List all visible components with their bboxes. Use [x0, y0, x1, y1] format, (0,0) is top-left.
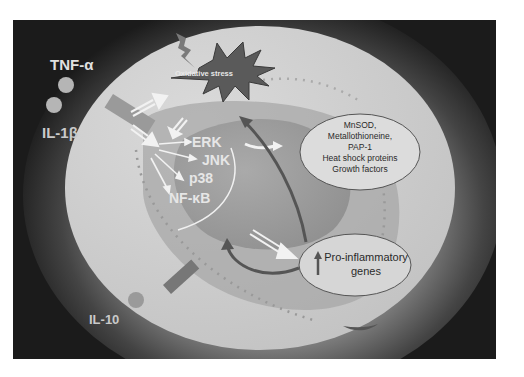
gene-heat-shock-proteins: Heat shock proteins [300, 153, 420, 164]
inflammatory-genes-text: Pro-inflammatory genes [311, 250, 421, 278]
label-il-1-beta: IL-1β [42, 124, 78, 141]
label-oxidative-stress: Oxidative stress [175, 69, 233, 78]
label-il-10: IL-10 [89, 312, 119, 327]
label-erk: ERK [192, 134, 222, 150]
label-jnk: JNK [202, 152, 230, 168]
label-pro-inflammatory: Pro-inflammatory [311, 250, 421, 264]
label-genes: genes [311, 264, 421, 278]
label-p38: p38 [189, 170, 213, 186]
gene-pap1: PAP-1 [300, 142, 420, 153]
diagram-frame: TNF-α IL-1β IL-10 Oxidative stress ERK J… [13, 20, 496, 359]
gene-growth-factors: Growth factors [300, 164, 420, 175]
gene-metallothioneine: Metallothioneine, [300, 131, 420, 142]
label-nf-kb: NF-κB [169, 190, 210, 206]
label-tnf-alpha: TNF-α [50, 56, 93, 73]
protective-genes-text: MnSOD, Metallothioneine, PAP-1 Heat shoc… [300, 120, 420, 175]
gene-mnsod: MnSOD, [300, 120, 420, 131]
